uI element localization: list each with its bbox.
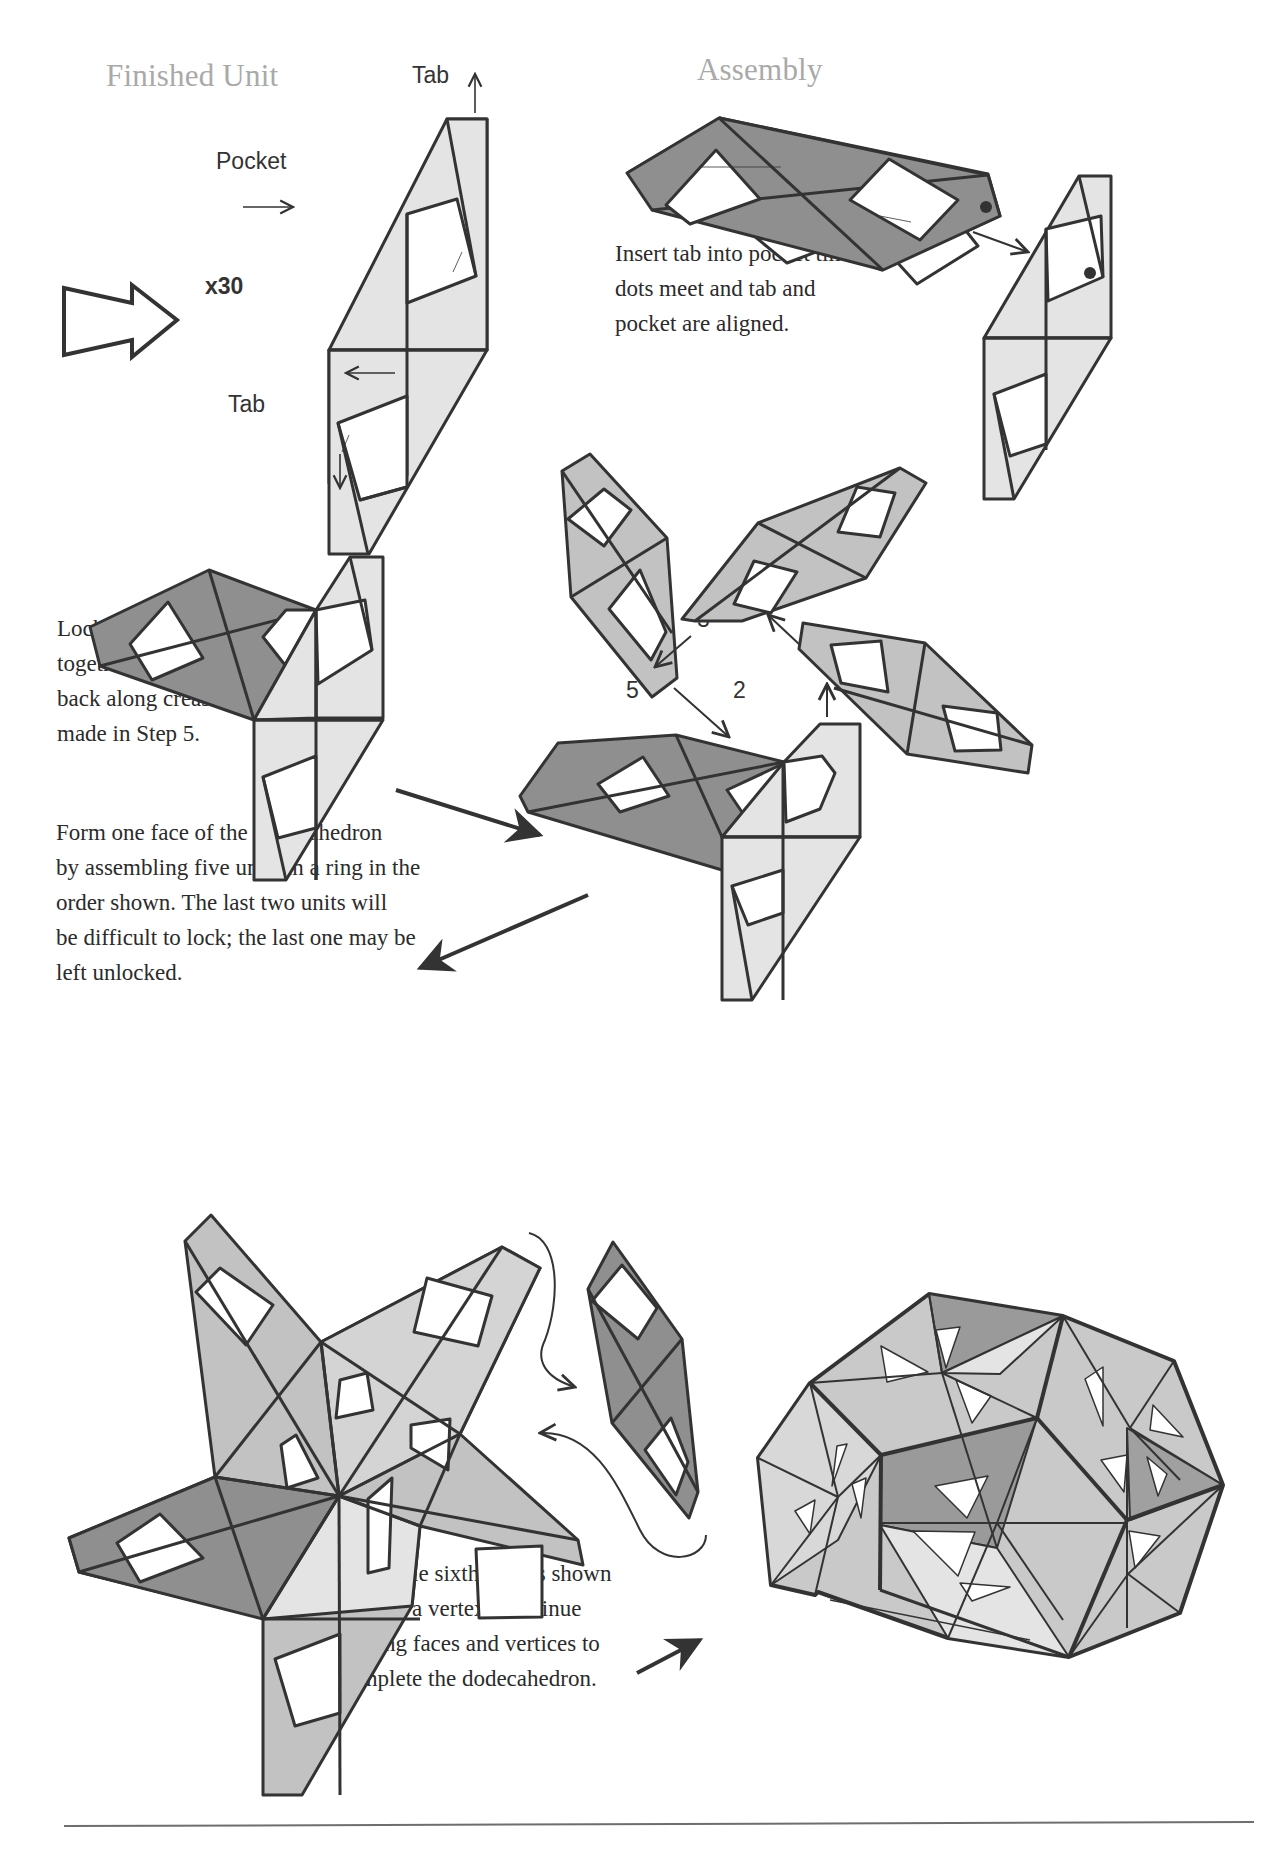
curved-arrow-top-icon — [529, 1233, 575, 1387]
outline-right-arrow-icon — [64, 285, 177, 357]
alignment-dot-2 — [1084, 267, 1096, 279]
ring-unit-1 — [562, 454, 677, 697]
vertex-star-diagram — [69, 1215, 583, 1795]
ring-unit-2 — [682, 468, 926, 621]
lock-two-units-diagram — [90, 546, 383, 880]
diagram-layer — [0, 0, 1285, 1856]
sixth-unit-diagram — [588, 1242, 698, 1518]
order-arrow-3-icon — [768, 615, 800, 645]
finished-unit-diagram — [329, 119, 487, 554]
alignment-dot — [980, 201, 992, 213]
next-step-arrow-3-icon — [637, 1640, 700, 1673]
instruction-page: Finished Unit Assembly Tab Pocket x30 Po… — [0, 0, 1285, 1856]
next-step-arrow-icon — [396, 790, 540, 835]
dodecahedron-diagram — [758, 1294, 1223, 1657]
assembly-light-unit — [984, 176, 1111, 499]
insert-arrow-icon — [973, 232, 1028, 252]
next-step-arrow-2-icon — [420, 895, 588, 968]
order-arrow-5-icon — [674, 688, 729, 737]
ring-unit-4 — [520, 724, 860, 1000]
